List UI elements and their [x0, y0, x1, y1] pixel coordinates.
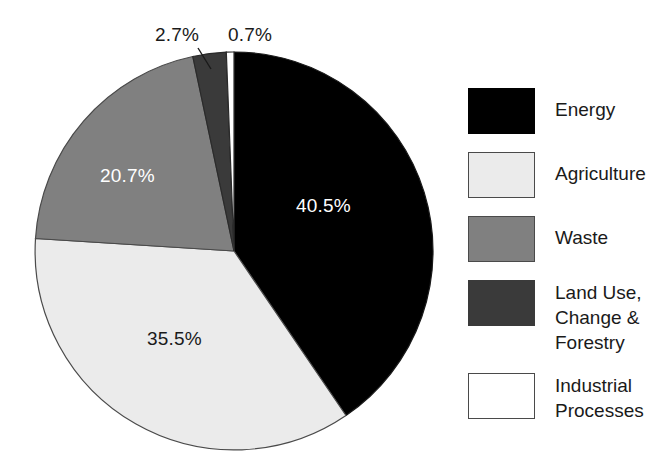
legend: Energy Agriculture Waste Land Use, Chang… — [468, 88, 653, 441]
legend-item-industrial-processes[interactable]: Industrial Processes — [468, 373, 653, 423]
slice-label-industrial-processes: 0.7% — [228, 25, 272, 44]
legend-swatch-waste — [468, 216, 535, 262]
pie-svg — [0, 0, 460, 467]
legend-label-industrial-processes: Industrial Processes — [555, 373, 644, 423]
legend-swatch-agriculture — [468, 152, 535, 198]
legend-swatch-industrial-processes — [468, 373, 535, 419]
legend-swatch-energy — [468, 88, 535, 134]
legend-label-waste: Waste — [555, 216, 608, 250]
slice-label-energy: 40.5% — [296, 196, 351, 215]
legend-label-energy: Energy — [555, 88, 615, 122]
slice-label-agriculture: 35.5% — [147, 329, 202, 348]
pie-plot-area: 40.5% 35.5% 20.7% 2.7% 0.7% — [0, 0, 460, 467]
legend-swatch-land-use-change-forestry — [468, 280, 535, 326]
legend-item-waste[interactable]: Waste — [468, 216, 653, 262]
slice-label-waste: 20.7% — [100, 166, 155, 185]
legend-item-agriculture[interactable]: Agriculture — [468, 152, 653, 198]
legend-item-land-use-change-forestry[interactable]: Land Use, Change & Forestry — [468, 280, 653, 355]
legend-label-land-use-change-forestry: Land Use, Change & Forestry — [555, 280, 642, 355]
slice-label-land-use-change-forestry: 2.7% — [155, 25, 199, 44]
pie-chart: 40.5% 35.5% 20.7% 2.7% 0.7% Energy Agric… — [0, 0, 656, 467]
legend-label-agriculture: Agriculture — [555, 152, 646, 186]
legend-item-energy[interactable]: Energy — [468, 88, 653, 134]
